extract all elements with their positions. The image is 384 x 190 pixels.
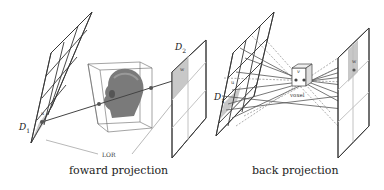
forward-bin-u-label: u (41, 110, 44, 116)
back-projection-caption: back projection (252, 164, 339, 177)
forward-d1-label: D1 (19, 122, 30, 134)
forward-projection-caption: foward projection (69, 164, 168, 177)
forward-bin-w-label: w (180, 66, 184, 72)
voxel-point-right (302, 78, 305, 81)
forward-d2-label: D2 (175, 42, 186, 54)
voxel-point-left (294, 78, 297, 81)
lor-label: LOR (102, 151, 115, 158)
back-detector-d1 (216, 12, 274, 136)
forward-detector-d2 (172, 40, 206, 158)
lor-pointers (46, 104, 172, 154)
forward-detector-d1 (31, 12, 92, 143)
projection-diagram (0, 0, 384, 190)
detector-point-d1 (40, 120, 44, 124)
voxel-cube (292, 64, 312, 86)
back-detector-d2-point (352, 68, 355, 71)
back-d1-label: D1 (214, 92, 225, 104)
back-detector-d2 (338, 28, 369, 158)
voxel-symbol: v (297, 68, 300, 74)
back-bin-u-label: u (231, 79, 234, 85)
exit-point (149, 86, 153, 90)
entry-point (97, 102, 101, 106)
head-image (104, 69, 144, 118)
back-bin-w-label: w (352, 58, 356, 64)
voxel-label: voxel (290, 92, 305, 98)
